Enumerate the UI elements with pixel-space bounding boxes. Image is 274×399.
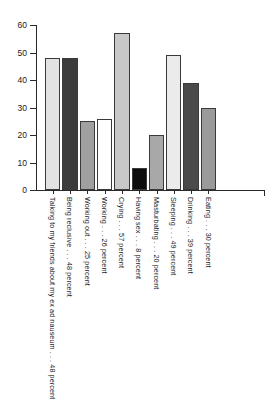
y-axis-tick	[30, 163, 36, 164]
category-label: Talking to my friends about my ex ad nau…	[49, 197, 56, 399]
y-axis-tick-label: 0	[0, 186, 27, 195]
category-label: Masturbating . . . 20 percent	[152, 197, 159, 289]
category-label: Working . . . 26 percent	[101, 197, 108, 274]
x-axis-tick	[208, 190, 209, 194]
bar	[166, 55, 181, 190]
y-axis-tick	[30, 108, 36, 109]
category-label: Drinking . . . 39 percent	[187, 197, 194, 274]
x-axis-end-tick	[264, 190, 265, 196]
y-axis-tick-label: 60	[0, 21, 27, 30]
bar	[149, 135, 164, 190]
y-axis-tick-label: 30	[0, 104, 27, 113]
y-axis-tick	[30, 135, 36, 136]
bar	[114, 33, 129, 190]
bar	[201, 108, 216, 191]
y-axis-tick	[30, 80, 36, 81]
category-label: Having sex . . . 8 percent	[135, 197, 142, 279]
category-label: Eating . . . 30 percent	[204, 197, 211, 268]
category-label: Working out . . . 25 percent	[83, 197, 90, 286]
x-axis-tick	[122, 190, 123, 194]
y-axis-tick-label: 10	[0, 159, 27, 168]
x-axis-tick	[53, 190, 54, 194]
x-axis-tick	[174, 190, 175, 194]
x-axis-tick	[191, 190, 192, 194]
x-axis-tick	[139, 190, 140, 194]
x-axis-tick	[105, 190, 106, 194]
y-axis-tick-label: 40	[0, 76, 27, 85]
bar	[62, 58, 77, 190]
plot-area	[37, 25, 265, 190]
y-axis-tick	[30, 53, 36, 54]
category-label: Being reclusive . . . 48 percent	[66, 197, 73, 297]
bar	[132, 168, 147, 190]
x-axis-tick	[70, 190, 71, 194]
bar	[183, 83, 198, 190]
y-axis-tick-label: 20	[0, 131, 27, 140]
category-label: Crying . . . 57 percent	[118, 197, 125, 268]
bar	[80, 121, 95, 190]
y-axis-tick-label: 50	[0, 49, 27, 58]
category-label: Sleeping . . . 49 percent	[170, 197, 177, 275]
bar	[97, 119, 112, 191]
bar	[45, 58, 60, 190]
x-axis-tick	[87, 190, 88, 194]
x-axis-tick	[157, 190, 158, 194]
y-axis-tick	[30, 25, 36, 26]
y-axis-tick	[30, 190, 36, 191]
